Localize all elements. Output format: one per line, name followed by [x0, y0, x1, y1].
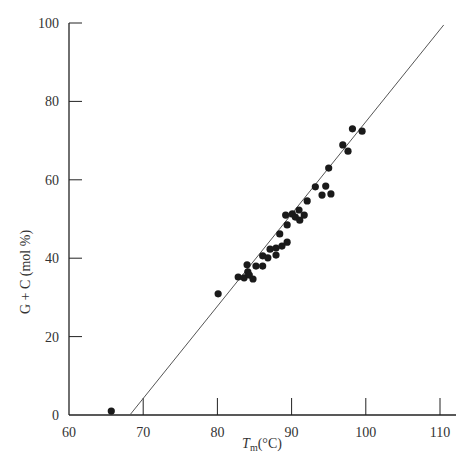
- data-point: [259, 262, 266, 269]
- data-point: [312, 183, 319, 190]
- y-tick-label: 0: [52, 408, 59, 423]
- data-point: [301, 211, 308, 218]
- y-axis: 020406080100: [38, 16, 82, 423]
- x-tick-label: 60: [62, 425, 76, 440]
- data-point: [266, 246, 273, 253]
- data-point: [349, 125, 356, 132]
- data-points: [108, 125, 366, 414]
- data-point: [282, 211, 289, 218]
- x-tick-label: 80: [210, 425, 224, 440]
- x-axis: 60708090100110: [62, 398, 456, 440]
- data-point: [252, 262, 259, 269]
- data-point: [295, 206, 302, 213]
- data-point: [243, 261, 250, 268]
- y-axis-title: G + C (mol %): [18, 230, 34, 314]
- fit-line: [130, 25, 444, 415]
- x-tick-label: 110: [430, 425, 450, 440]
- data-point: [327, 190, 334, 197]
- data-point: [215, 290, 222, 297]
- x-tick-label: 90: [285, 425, 299, 440]
- x-tick-label: 70: [136, 425, 150, 440]
- data-point: [322, 182, 329, 189]
- regression-line: [130, 25, 444, 415]
- y-tick-label: 60: [45, 173, 59, 188]
- y-tick-label: 80: [45, 94, 59, 109]
- x-axis-title: Tm(°C): [242, 436, 282, 453]
- data-point: [344, 148, 351, 155]
- x-tick-label: 100: [355, 425, 376, 440]
- y-tick-label: 40: [45, 251, 59, 266]
- y-tick-label: 100: [38, 16, 59, 31]
- y-tick-label: 20: [45, 330, 59, 345]
- data-point: [108, 407, 115, 414]
- data-point: [276, 230, 283, 237]
- data-point: [304, 197, 311, 204]
- data-point: [325, 164, 332, 171]
- data-point: [272, 251, 279, 258]
- x-axis-title-unit: (°C): [258, 436, 283, 452]
- data-point: [284, 221, 291, 228]
- data-point: [264, 254, 271, 261]
- scatter-chart: 020406080100 60708090100110 G + C (mol %…: [0, 0, 473, 466]
- data-point: [318, 191, 325, 198]
- data-point: [358, 128, 365, 135]
- data-point: [284, 239, 291, 246]
- data-point: [249, 275, 256, 282]
- data-point: [339, 141, 346, 148]
